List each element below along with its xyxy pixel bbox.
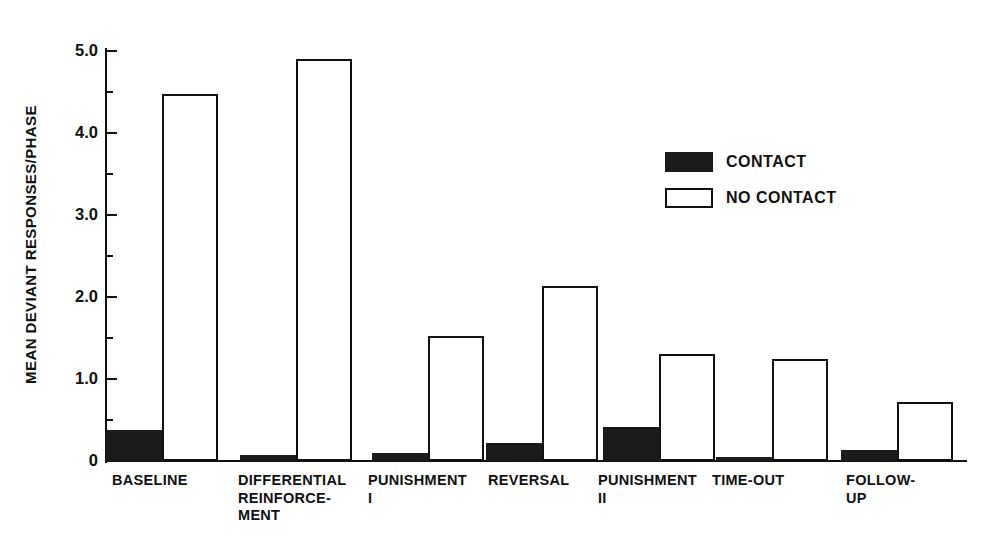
legend-item-contact: CONTACT <box>665 148 836 175</box>
x-axis-label: DIFFERENTIAL REINFORCE- MENT <box>238 472 346 525</box>
bar-no-contact <box>428 336 484 461</box>
bar-no-contact <box>897 402 953 461</box>
x-axis-label: BASELINE <box>112 472 188 490</box>
y-axis-title: MEAN DEVIANT RESPONSES/PHASE <box>22 65 39 425</box>
bar-contact <box>716 457 772 461</box>
chart-legend: CONTACT NO CONTACT <box>665 148 836 220</box>
bar-no-contact <box>772 359 828 462</box>
bar-contact <box>106 430 162 461</box>
x-axis-label: TIME-OUT <box>712 472 784 490</box>
legend-swatch-contact-icon <box>665 152 713 172</box>
y-tick-label: 3.0 <box>52 206 98 223</box>
x-axis-label: FOLLOW- UP <box>846 472 915 507</box>
y-tick-label: 5.0 <box>52 42 98 59</box>
bar-contact <box>486 443 542 461</box>
legend-label-contact: CONTACT <box>726 153 807 171</box>
legend-swatch-no-contact-icon <box>665 188 713 208</box>
bar-contact <box>841 450 897 461</box>
bar-contact <box>603 427 659 461</box>
bar-no-contact <box>542 286 598 461</box>
x-axis-label: PUNISHMENT I <box>368 472 467 507</box>
y-tick-label: 0 <box>52 452 98 469</box>
y-tick-label: 2.0 <box>52 288 98 305</box>
x-axis-label: REVERSAL <box>488 472 569 490</box>
bar-no-contact <box>162 94 218 461</box>
y-tick-label: 4.0 <box>52 124 98 141</box>
y-tick-label: 1.0 <box>52 370 98 387</box>
bar-no-contact <box>296 59 352 461</box>
legend-label-no-contact: NO CONTACT <box>726 189 836 207</box>
bar-contact <box>240 455 296 461</box>
x-axis-label: PUNISHMENT II <box>598 472 697 507</box>
legend-item-no-contact: NO CONTACT <box>665 184 836 211</box>
bar-contact <box>372 453 428 461</box>
plot-area <box>106 51 966 461</box>
chart-figure: MEAN DEVIANT RESPONSES/PHASE 01.02.03.04… <box>0 0 987 557</box>
bar-no-contact <box>659 354 715 461</box>
